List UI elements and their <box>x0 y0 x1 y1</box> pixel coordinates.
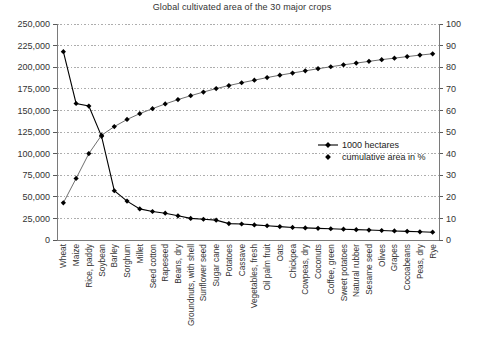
x-axis-tick-label: Rice, paddy <box>84 243 94 288</box>
x-axis-tick-label: Chickpea <box>288 244 298 279</box>
data-point-marker <box>366 227 371 232</box>
y-axis-right-tick-label: 40 <box>446 149 456 159</box>
data-point-marker <box>61 49 66 54</box>
chart-plot-area: 025,00050,00075,000100,000125,000150,000… <box>0 0 484 353</box>
x-axis-tick-label: Oil palm fruit <box>262 243 272 290</box>
x-axis-tick-label: Grapes <box>389 244 399 271</box>
data-point-marker <box>315 226 320 231</box>
y-axis-right-tick-label: 0 <box>446 235 451 245</box>
data-point-marker <box>265 223 270 228</box>
data-point-marker <box>137 111 142 116</box>
legend-marker <box>325 142 331 148</box>
data-point-marker <box>303 225 308 230</box>
y-axis-right-tick-label: 20 <box>446 192 456 202</box>
x-axis-tick-label: Potatoes <box>224 244 234 277</box>
data-point-marker <box>379 57 384 62</box>
y-axis-left-tick-label: 175,000 <box>17 84 50 94</box>
data-point-marker <box>74 101 79 106</box>
y-axis-left-tick-label: 225,000 <box>17 41 50 51</box>
chart-legend: 1000 hectarescumulative area in % <box>318 140 426 162</box>
x-axis-tick-label: Cocoabeans <box>402 244 412 291</box>
data-point-marker <box>405 54 410 59</box>
x-axis-tick-label: Groundnuts, with shell <box>186 244 196 326</box>
x-axis-tick-label: Rye <box>428 244 438 259</box>
data-point-marker <box>239 80 244 85</box>
y-axis-left-tick-label: 100,000 <box>17 149 50 159</box>
data-point-marker <box>265 75 270 80</box>
y-axis-right-tick-label: 70 <box>446 84 456 94</box>
data-point-marker <box>417 229 422 234</box>
y-axis-left-tick-label: 250,000 <box>17 19 50 29</box>
data-point-marker <box>137 206 142 211</box>
x-axis-tick-label: Barley <box>109 243 119 267</box>
x-axis-tick-label: Millet <box>135 243 145 263</box>
x-axis-tick-label: Coconuts <box>313 244 323 279</box>
data-point-marker <box>188 93 193 98</box>
data-point-marker <box>366 59 371 64</box>
data-point-marker <box>163 211 168 216</box>
legend-label: 1000 hectares <box>342 140 400 150</box>
y-axis-left-tick-label: 25,000 <box>22 214 50 224</box>
x-axis-tick-label: Cowpeas, dry <box>300 243 310 295</box>
series-line-2 <box>63 54 432 203</box>
y-axis-right-tick-label: 30 <box>446 170 456 180</box>
y-axis-left-tick-label: 75,000 <box>22 170 50 180</box>
x-axis-tick-label: Soybean <box>97 244 107 277</box>
data-point-marker <box>277 224 282 229</box>
data-point-marker <box>214 86 219 91</box>
data-point-marker <box>163 101 168 106</box>
data-point-marker <box>226 83 231 88</box>
data-point-marker <box>124 117 129 122</box>
x-axis-tick-label: Peas, dry <box>415 243 425 279</box>
data-point-marker <box>277 73 282 78</box>
y-axis-left-tick-label: 0 <box>45 235 50 245</box>
data-point-marker <box>61 200 66 205</box>
x-axis-tick-label: Sweet potatoes <box>339 244 349 301</box>
x-axis-tick-label: Natural rubber <box>351 244 361 297</box>
data-point-marker <box>252 78 257 83</box>
x-axis-tick-label: Cassave <box>237 244 247 277</box>
x-axis-tick-label: Vegetables, fresh <box>249 244 259 309</box>
data-point-marker <box>328 226 333 231</box>
x-axis-tick-label: Coffee, green <box>326 244 336 295</box>
x-axis-tick-label: Sesame seed <box>364 244 374 295</box>
data-point-marker <box>392 56 397 61</box>
x-axis-tick-label: Oats <box>275 244 285 262</box>
legend-label: cumulative area in % <box>342 152 426 162</box>
data-point-marker <box>290 225 295 230</box>
data-point-marker <box>354 60 359 65</box>
x-axis-tick-label: Olives <box>377 244 387 267</box>
y-axis-right-ticks: 0102030405060708090100 <box>446 19 461 245</box>
data-point-marker <box>290 70 295 75</box>
data-point-marker <box>341 62 346 67</box>
data-point-marker <box>188 216 193 221</box>
data-point-marker <box>341 227 346 232</box>
data-point-marker <box>328 64 333 69</box>
x-axis-ticks: WheatMaizeRice, paddySoybeanBarleySorghu… <box>58 243 437 326</box>
data-point-marker <box>150 209 155 214</box>
legend-marker <box>325 154 331 160</box>
y-axis-right-tick-label: 50 <box>446 127 456 137</box>
x-axis-tick-label: Seed cotton <box>148 244 158 289</box>
data-point-marker <box>150 106 155 111</box>
x-axis-tick-label: Sorghum <box>122 244 132 278</box>
x-axis-tick-label: Sugar cane <box>211 244 221 287</box>
data-point-marker <box>417 53 422 58</box>
data-point-marker <box>252 222 257 227</box>
x-axis-tick-label: Sunflower seed <box>198 244 208 302</box>
data-point-marker <box>430 230 435 235</box>
y-axis-left-tick-label: 125,000 <box>17 127 50 137</box>
data-point-marker <box>405 229 410 234</box>
y-axis-right-tick-label: 10 <box>446 214 456 224</box>
data-point-marker <box>201 89 206 94</box>
data-point-marker <box>239 221 244 226</box>
data-point-marker <box>175 213 180 218</box>
y-axis-right-tick-label: 90 <box>446 41 456 51</box>
x-axis-tick-label: Rapeseed <box>160 244 170 282</box>
x-axis-tick-label: Wheat <box>58 243 68 268</box>
x-axis-tick-label: Maize <box>71 244 81 267</box>
y-axis-left-tick-label: 200,000 <box>17 62 50 72</box>
y-axis-right-tick-label: 100 <box>446 19 461 29</box>
x-axis-tick-label: Beans, dry <box>173 243 183 284</box>
y-axis-right-tick-label: 80 <box>446 62 456 72</box>
